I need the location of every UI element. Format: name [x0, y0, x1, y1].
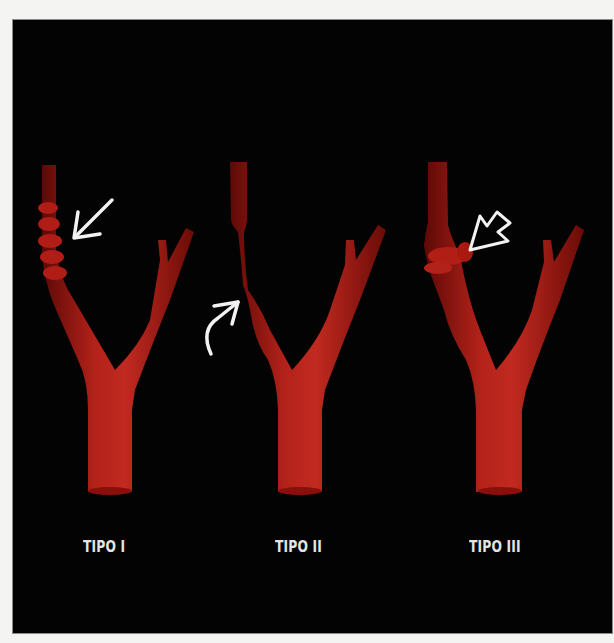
label-tipo-1: TIPO I: [83, 538, 125, 556]
vessel-tipo-2: [230, 162, 386, 495]
label-tipo-3: TIPO III: [469, 538, 521, 556]
vessel-tipo-3: [424, 162, 584, 495]
curved-arrow-icon: [207, 302, 238, 354]
label-tipo-2: TIPO II: [275, 538, 322, 556]
open-arrow-icon: [470, 212, 510, 250]
straight-arrow-icon: [74, 200, 112, 238]
vessel-tipo-1: [38, 165, 194, 495]
